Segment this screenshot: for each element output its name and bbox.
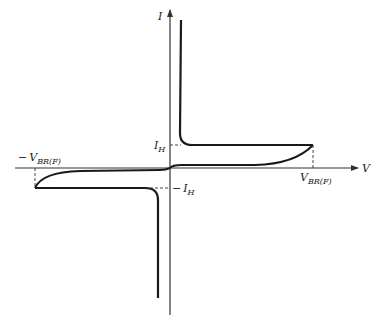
ih-neg-label: −IH bbox=[172, 182, 196, 197]
v-axis-label: V bbox=[362, 162, 371, 175]
vbr-pos-label: VBR(F) bbox=[300, 171, 332, 186]
forward-on-state-curve bbox=[180, 20, 313, 145]
forward-blocking-curve bbox=[170, 145, 313, 168]
iv-characteristic-diagram: I V IH −IH VBR(F) −VBR(F) bbox=[0, 0, 374, 331]
reverse-on-state-curve bbox=[35, 188, 158, 298]
reverse-blocking-curve bbox=[35, 168, 170, 188]
ih-pos-label: IH bbox=[153, 139, 166, 154]
vbr-neg-label: −VBR(F) bbox=[18, 151, 61, 166]
i-axis-label: I bbox=[157, 10, 163, 23]
